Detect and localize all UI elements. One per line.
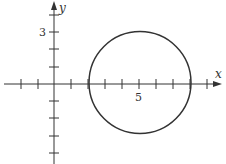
x-tick-label-5: 5 xyxy=(135,91,142,104)
y-axis-arrow-icon xyxy=(51,1,57,10)
coordinate-plane-figure: x y 5 3 xyxy=(0,0,226,164)
x-axis-arrow-icon xyxy=(213,81,222,87)
y-tick-label-3: 3 xyxy=(39,26,46,39)
circle-shape xyxy=(89,32,191,134)
y-axis xyxy=(51,1,57,164)
x-axis-label: x xyxy=(215,67,222,81)
x-axis xyxy=(4,81,222,87)
y-axis-label: y xyxy=(58,1,66,15)
